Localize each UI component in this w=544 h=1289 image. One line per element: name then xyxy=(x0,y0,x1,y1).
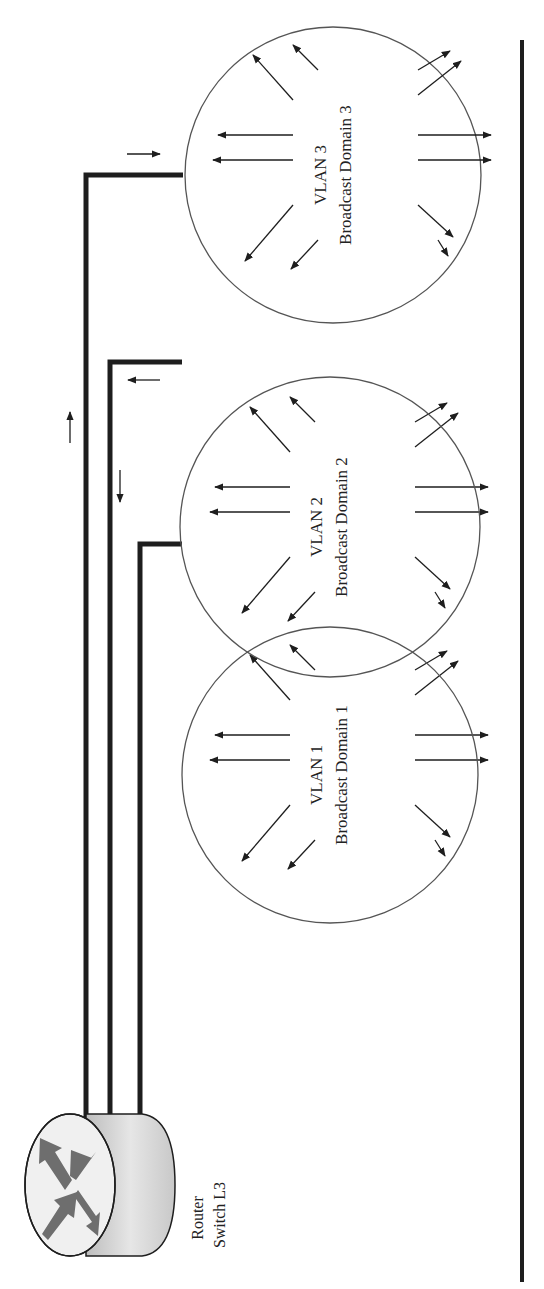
vlan-2-circle xyxy=(180,377,480,677)
wire-vlan2 xyxy=(110,362,182,1118)
broadcast-arrow-icon xyxy=(415,557,450,589)
vlan-1-subtitle: Broadcast Domain 1 xyxy=(332,705,351,845)
broadcast-arrow-icon xyxy=(253,55,293,100)
vlan-2-subtitle: Broadcast Domain 2 xyxy=(332,457,351,597)
vlan-1-title: VLAN 1 xyxy=(307,745,326,805)
broadcast-arrow-icon xyxy=(293,45,318,70)
vlan-3-domain xyxy=(185,27,481,323)
router-label-line1: Router xyxy=(189,1196,206,1240)
vlan-1-circle xyxy=(182,627,478,923)
wire-vlan1 xyxy=(140,544,182,1118)
vlan-3-title: VLAN 3 xyxy=(311,145,330,205)
broadcast-arrow-icon xyxy=(290,645,315,670)
broadcast-arrow-icon xyxy=(435,592,445,608)
broadcast-arrow-icon xyxy=(415,805,450,837)
broadcast-arrow-icon xyxy=(288,592,315,621)
router-switch-icon: Router Switch L3 xyxy=(25,1114,228,1256)
broadcast-arrow-icon xyxy=(438,240,448,256)
vlan-3-circle xyxy=(185,27,481,323)
vlan-1-domain: VLAN 1 Broadcast Domain 1 xyxy=(182,627,478,923)
broadcast-arrow-icon xyxy=(242,557,290,613)
broadcast-arrow-icon xyxy=(290,397,315,422)
trunk-wires xyxy=(86,175,183,1118)
broadcast-arrow-icon xyxy=(415,403,447,422)
vlan-diagram: VLAN 1 Broadcast Domain 1 VLAN 2 Broadca… xyxy=(0,0,544,1289)
broadcast-arrow-icon xyxy=(250,655,290,700)
vlan-3-subtitle: Broadcast Domain 3 xyxy=(336,105,355,245)
broadcast-arrow-icon xyxy=(250,407,290,452)
broadcast-arrow-icon xyxy=(418,205,453,237)
broadcast-arrow-icon xyxy=(291,240,318,269)
vlan-2-title: VLAN 2 xyxy=(307,497,326,557)
broadcast-arrow-icon xyxy=(245,205,293,261)
broadcast-arrow-icon xyxy=(435,840,445,856)
vlan-3-labels: VLAN 3 Broadcast Domain 3 xyxy=(311,105,355,245)
vlan-2-domain: VLAN 2 Broadcast Domain 2 xyxy=(180,377,480,677)
wire-vlan3 xyxy=(86,175,183,1118)
broadcast-arrow-icon xyxy=(288,840,315,869)
broadcast-arrow-icon xyxy=(242,805,290,861)
router-label-line2: Switch L3 xyxy=(211,1182,228,1248)
